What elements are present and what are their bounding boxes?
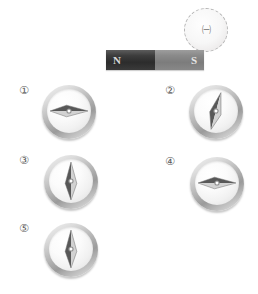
compass-2-face — [194, 89, 238, 133]
bar-magnet: N S — [106, 50, 204, 70]
compass-5 — [44, 223, 98, 277]
compass-5-needle — [49, 227, 93, 271]
compass-3-label: ③ — [19, 155, 29, 166]
compass-5-needle-icon — [49, 227, 93, 271]
compass-4-needle-icon — [195, 161, 239, 205]
compass-1-label: ① — [19, 85, 29, 96]
compass-4 — [190, 157, 244, 211]
compass-2-label: ② — [165, 85, 175, 96]
compass-1-needle — [47, 89, 91, 133]
compass-4-label: ④ — [165, 156, 175, 167]
compass-1-face — [47, 89, 91, 133]
compass-1 — [42, 85, 96, 139]
compass-2 — [189, 85, 243, 139]
dashed-region-marker-label: ㈠ — [202, 26, 211, 35]
magnet-south-pole-label: S — [191, 55, 197, 66]
compass-3-needle-icon — [49, 159, 93, 203]
compass-4-needle — [195, 161, 239, 205]
compass-4-face — [195, 161, 239, 205]
compass-2-needle-icon — [194, 89, 238, 133]
compass-2-needle — [194, 89, 238, 133]
compass-3 — [44, 155, 98, 209]
compass-5-label: ⑤ — [19, 223, 29, 234]
figure-canvas: ㈠ N S ①②③④⑤ — [0, 0, 258, 294]
compass-1-pivot — [68, 110, 71, 113]
compass-1-needle-icon — [47, 89, 91, 133]
compass-4-pivot — [216, 182, 219, 185]
compass-3-face — [49, 159, 93, 203]
magnet-north-pole-label: N — [113, 55, 121, 66]
compass-5-face — [49, 227, 93, 271]
compass-3-pivot — [70, 180, 73, 183]
compass-3-needle — [49, 159, 93, 203]
dashed-region-marker: ㈠ — [184, 8, 228, 52]
magnet-north-pole: N — [106, 50, 155, 70]
magnet-south-pole: S — [155, 50, 204, 70]
compass-5-pivot — [70, 248, 73, 251]
